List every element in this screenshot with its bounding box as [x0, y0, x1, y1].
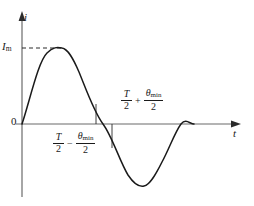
annotation-lower-crossing: T 2 − θmin 2 — [52, 131, 96, 155]
y-axis-label: i — [24, 12, 27, 23]
denominator-2-lower: 2 — [54, 144, 63, 155]
origin-label: 0 — [11, 116, 17, 127]
annotation-upper-crossing: T 2 + θmin 2 — [120, 88, 164, 112]
amplitude-label: Im — [2, 41, 12, 53]
waveform-figure: i t 0 Im T 2 − θmin 2 T 2 + θmin 2 — [0, 0, 254, 206]
fraction-t-over-2-lower: T 2 — [53, 132, 64, 155]
denominator-2-theta-lower: 2 — [81, 145, 90, 156]
numerator-t-lower: T — [54, 132, 64, 143]
denominator-2-theta-upper: 2 — [149, 102, 158, 113]
fraction-theta-over-2-upper: θmin 2 — [144, 88, 164, 112]
sine-curve — [22, 48, 194, 187]
operator-minus: − — [67, 138, 73, 149]
numerator-theta-upper: θmin — [144, 88, 164, 100]
fraction-t-over-2-upper: T 2 — [121, 89, 132, 112]
x-axis-label: t — [233, 128, 236, 139]
fraction-theta-over-2-lower: θmin 2 — [76, 131, 96, 155]
theta-subscript-upper: min — [151, 91, 162, 99]
theta-subscript-lower: min — [83, 134, 94, 142]
denominator-2-upper: 2 — [122, 101, 131, 112]
amplitude-subscript: m — [6, 44, 12, 53]
numerator-t-upper: T — [122, 89, 132, 100]
numerator-theta-lower: θmin — [76, 131, 96, 143]
operator-plus: + — [135, 95, 141, 106]
